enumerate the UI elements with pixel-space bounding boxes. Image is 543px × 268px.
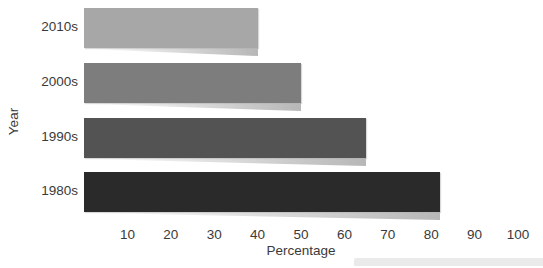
x-tick-label-100: 100 [507,227,530,242]
bar-2000s [84,63,301,103]
x-tick-label-60: 60 [337,227,352,242]
x-tick-label-10: 10 [120,227,135,242]
x-tick-label-90: 90 [467,227,482,242]
bar-1990s [84,118,366,158]
bar-1980s [84,172,440,212]
x-tick-label-40: 40 [250,227,265,242]
x-tick-label-30: 30 [207,227,222,242]
bar-shadow-2010s [84,48,258,56]
category-label-2000s: 2000s [0,74,78,91]
x-tick-label-80: 80 [424,227,439,242]
x-tick-label-20: 20 [163,227,178,242]
category-label-1990s: 1990s [0,129,78,146]
bar-shadow-1980s [84,212,440,220]
x-axis-title: Percentage [241,243,361,258]
bar-shadow-2000s [84,103,301,111]
x-tick-label-50: 50 [293,227,308,242]
bar-chart-figure: Year 2010s2000s1990s1980s102030405060708… [0,0,543,268]
category-label-2010s: 2010s [0,19,78,36]
category-label-1980s: 1980s [0,183,78,200]
bottom-right-shadow-artifact [354,258,543,266]
bar-2010s [84,8,258,48]
x-tick-label-70: 70 [380,227,395,242]
bar-shadow-1990s [84,158,366,166]
